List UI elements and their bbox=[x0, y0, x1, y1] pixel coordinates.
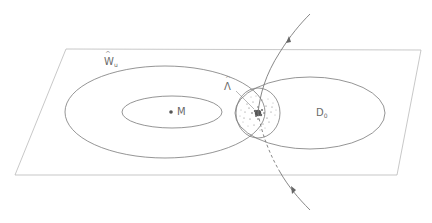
w-hat: W bbox=[104, 57, 114, 67]
w-subscript: u bbox=[114, 61, 118, 68]
arrow-up-icon bbox=[291, 186, 296, 194]
point-m bbox=[169, 110, 173, 114]
d-subscript: 0 bbox=[324, 112, 328, 119]
manifold-diagram bbox=[0, 0, 432, 223]
plane-parallelogram bbox=[15, 49, 421, 175]
m-text: M bbox=[177, 106, 186, 117]
label-w-u: Wu bbox=[104, 57, 118, 68]
lambda-hat: Λ bbox=[224, 82, 231, 92]
label-d0: D0 bbox=[316, 108, 328, 119]
trajectory-upper bbox=[258, 14, 310, 113]
label-lambda: Λ bbox=[224, 82, 231, 92]
label-m: M bbox=[177, 107, 186, 117]
d-text: D bbox=[316, 107, 324, 118]
